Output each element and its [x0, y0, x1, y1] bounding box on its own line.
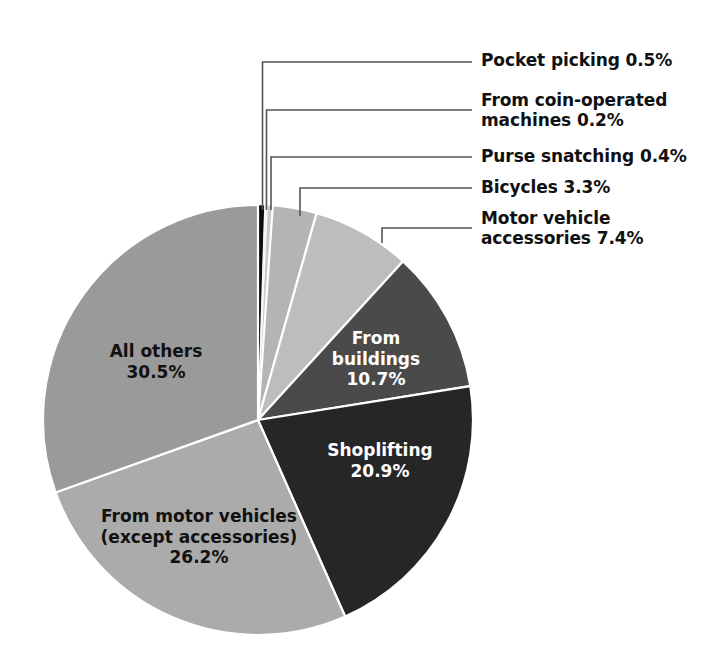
callout-label-bicycles: Bicycles 3.3%: [481, 177, 610, 197]
pie-chart: Pocket picking 0.5% From coin-operated m…: [0, 0, 722, 653]
callout-label-pocket-picking: Pocket picking 0.5%: [481, 50, 672, 70]
callout-label-purse-snatching: Purse snatching 0.4%: [481, 146, 687, 166]
leader-line-purse-snatching: [271, 157, 472, 210]
leader-line-coin-operated-machines: [267, 110, 473, 210]
slice-label-all-others: All others 30.5%: [84, 341, 228, 382]
slice-label-shoplifting: Shoplifting 20.9%: [300, 440, 460, 481]
slice-label-from-buildings: From buildings 10.7%: [310, 328, 442, 390]
callout-label-coin-operated-machines: From coin-operated machines 0.2%: [481, 90, 667, 130]
slice-label-from-motor-vehicles: From motor vehicles (except accessories)…: [77, 506, 321, 568]
leader-line-motor-vehicle-accessories: [382, 228, 472, 243]
pie-slice-group: [43, 205, 473, 635]
leader-line-bicycles: [300, 188, 472, 216]
callout-label-motor-vehicle-accessories: Motor vehicle accessories 7.4%: [481, 208, 643, 248]
